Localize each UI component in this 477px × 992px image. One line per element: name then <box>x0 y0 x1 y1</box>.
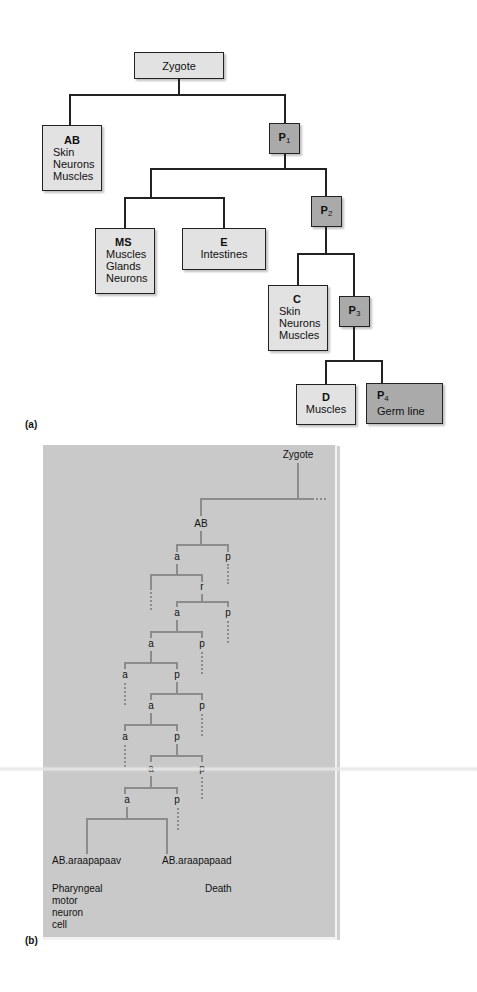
connector-dashed <box>150 588 152 610</box>
node-a: a <box>148 638 154 649</box>
connector <box>86 818 88 854</box>
connector-dashed <box>177 808 179 830</box>
node-p4: P4 Germ line <box>366 383 443 424</box>
node-p1-label: P <box>279 131 286 143</box>
connector <box>150 631 203 633</box>
connector-dashed <box>227 621 229 643</box>
node-p: p <box>199 700 205 711</box>
leaf-fate-posterior: Death <box>205 883 232 894</box>
connector <box>150 574 203 576</box>
connector <box>223 197 225 228</box>
connector-dashed <box>312 498 326 500</box>
fate-text: Neurons <box>279 317 327 329</box>
node-d-title: D <box>297 391 355 403</box>
connector-dashed <box>201 777 203 799</box>
connector <box>124 787 177 789</box>
connector <box>166 818 168 854</box>
connector <box>150 693 152 700</box>
node-p3-label: P <box>349 304 356 316</box>
connector <box>325 360 382 362</box>
node-p1-sub: 1 <box>286 136 290 145</box>
connector <box>124 197 224 199</box>
connector <box>284 94 286 123</box>
fate-text: Neurons <box>53 158 101 170</box>
node-p: p <box>174 731 180 742</box>
node-p2-sub: 2 <box>328 209 332 218</box>
node-a: a <box>124 794 130 805</box>
connector <box>150 631 152 638</box>
connector <box>150 168 326 170</box>
node-p1: P1 <box>269 123 300 154</box>
node-p4-sub: 4 <box>384 394 388 403</box>
node-zygote-b: Zygote <box>283 449 314 460</box>
node-ms-title: MS <box>106 236 154 248</box>
connector <box>201 755 203 762</box>
connector <box>176 601 229 603</box>
panel-b-label: (b) <box>25 935 38 946</box>
connector <box>69 94 285 96</box>
fate-text: Muscles <box>106 248 154 260</box>
fate-text: Neurons <box>106 272 154 284</box>
node-ms: MS Muscles Glands Neurons <box>95 228 155 294</box>
fate-text: Skin <box>279 305 327 317</box>
node-p: p <box>199 638 205 649</box>
fate-text: Pharyngeal <box>52 883 103 895</box>
fate-text: Glands <box>106 260 154 272</box>
node-e-title: E <box>183 236 265 248</box>
connector <box>124 724 177 726</box>
connector <box>150 168 152 198</box>
connector <box>176 544 229 546</box>
connector <box>325 360 327 384</box>
node-p2-label: P <box>321 204 328 216</box>
connector <box>178 79 180 95</box>
panel-a-label: (a) <box>25 419 37 430</box>
connector-dashed <box>227 564 229 584</box>
connector <box>150 574 152 588</box>
fate-text: Muscles <box>53 170 101 182</box>
connector <box>325 168 327 196</box>
connector <box>353 327 355 361</box>
fate-text: neuron <box>52 907 103 919</box>
connector <box>124 787 126 794</box>
connector <box>201 631 203 638</box>
connector <box>150 755 152 762</box>
node-a: a <box>122 669 128 680</box>
node-r: r <box>200 581 203 592</box>
node-a: a <box>174 607 180 618</box>
connector <box>325 227 327 254</box>
connector <box>200 498 202 516</box>
node-p: p <box>174 794 180 805</box>
fate-text: Intestines <box>183 248 265 260</box>
connector <box>124 662 177 664</box>
node-a: a <box>174 551 180 562</box>
connector <box>124 197 126 229</box>
connector <box>176 662 178 669</box>
node-ab-b: AB <box>194 518 207 529</box>
fate-text: Skin <box>53 146 101 158</box>
node-d: D Muscles <box>296 384 356 425</box>
node-p: p <box>225 607 231 618</box>
connector-dashed <box>201 714 203 736</box>
node-p2: P2 <box>311 196 342 227</box>
connector <box>150 755 203 757</box>
scan-seam <box>0 766 477 772</box>
connector <box>86 818 168 820</box>
node-p: p <box>174 669 180 680</box>
connector <box>124 662 126 669</box>
leaf-name-posterior: AB.araapapaad <box>162 855 232 866</box>
node-a: a <box>122 731 128 742</box>
connector <box>176 724 178 731</box>
connector <box>284 154 286 168</box>
node-p3-sub: 3 <box>356 309 360 318</box>
connector <box>150 693 203 695</box>
connector-dashed <box>201 652 203 674</box>
leaf-fate-anterior: Pharyngeal motor neuron cell <box>52 883 103 931</box>
connector <box>353 253 355 296</box>
node-p: p <box>225 551 231 562</box>
fate-text: Muscles <box>297 403 355 415</box>
connector <box>297 253 299 285</box>
fate-text: cell <box>52 919 103 931</box>
connector <box>381 360 383 383</box>
panel-b-edge <box>337 446 340 940</box>
fate-text: motor <box>52 895 103 907</box>
